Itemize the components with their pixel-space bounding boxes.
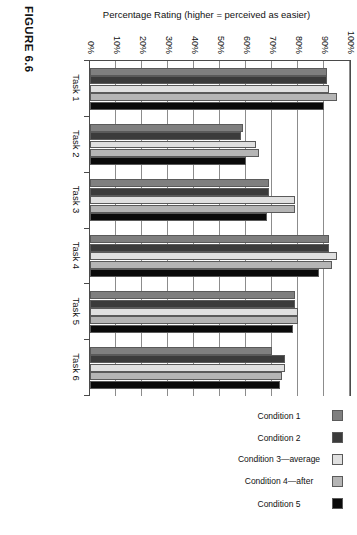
legend-label: Condition 1	[257, 410, 300, 420]
category-label-task-3: Task 3	[71, 186, 82, 213]
y-axis-tick-label: 90%	[320, 36, 330, 54]
bar	[90, 93, 337, 101]
bar	[90, 372, 282, 380]
legend-swatch-icon	[332, 410, 343, 421]
bar	[90, 196, 295, 204]
category-tick-mark	[84, 395, 89, 396]
legend-item[interactable]: Condition 3—average	[230, 448, 343, 470]
bar	[90, 188, 269, 196]
bar	[90, 244, 329, 252]
y-axis-tick-label: 0%	[86, 41, 96, 54]
bar	[90, 85, 329, 93]
y-axis-tick-label: 70%	[268, 36, 278, 54]
bar	[90, 132, 241, 140]
legend-label-container: Condition 4—after	[230, 470, 326, 492]
figure-caption: FIGURE 6.6	[23, 6, 35, 73]
y-axis-tick-label: 30%	[164, 36, 174, 54]
bar	[90, 213, 267, 221]
y-axis-tick-label: 50%	[216, 36, 226, 54]
legend-item[interactable]: Condition 1	[230, 404, 343, 426]
chart-legend: Condition 1Condition 2Condition 3—averag…	[230, 404, 343, 514]
y-axis-tick-label: 80%	[294, 36, 304, 54]
category-tick-mark	[84, 283, 89, 284]
legend-swatch-icon	[332, 498, 343, 509]
bar	[90, 149, 259, 157]
legend-label: Condition 2	[257, 432, 300, 442]
bar	[90, 235, 329, 243]
bar	[90, 205, 295, 213]
bar	[90, 308, 298, 316]
legend-label: Condition 3—average	[238, 454, 320, 464]
legend-label-container: Condition 3—average	[230, 448, 326, 470]
bar	[90, 300, 295, 308]
category-tick-mark	[84, 228, 89, 229]
bar	[90, 124, 243, 132]
y-axis-tick-label: 20%	[138, 36, 148, 54]
category-label-task-5: Task 5	[71, 298, 82, 325]
legend-item[interactable]: Condition 4—after	[230, 470, 343, 492]
legend-label: Condition 4—after	[245, 476, 314, 486]
y-axis-tick-label: 100%	[346, 31, 356, 54]
y-axis-title: Percentage Rating (higher = perceived as…	[103, 10, 310, 21]
bar	[90, 325, 293, 333]
category-tick-mark	[84, 339, 89, 340]
category-label-task-2: Task 2	[71, 130, 82, 157]
bar	[90, 157, 246, 165]
bars-layer	[90, 61, 350, 396]
bar	[90, 269, 319, 277]
legend-item[interactable]: Condition 2	[230, 426, 343, 448]
legend-label-container: Condition 5	[230, 492, 326, 514]
bar	[90, 381, 280, 389]
bar	[90, 261, 332, 269]
legend-swatch-icon	[332, 432, 343, 443]
bar	[90, 102, 324, 110]
category-tick-mark	[84, 116, 89, 117]
bar	[90, 355, 285, 363]
bar	[90, 252, 337, 260]
legend-label-container: Condition 2	[230, 426, 326, 448]
category-label-task-6: Task 6	[71, 353, 82, 380]
bar	[90, 76, 327, 84]
y-axis-tick-label: 10%	[112, 36, 122, 54]
y-axis-tick-labels: 0%10%20%30%40%50%60%70%80%90%100%	[89, 26, 351, 58]
category-tick-mark	[84, 60, 89, 61]
plot-frame	[89, 60, 351, 396]
y-axis-tick-label: 60%	[242, 36, 252, 54]
bar	[90, 316, 298, 324]
bar	[90, 141, 256, 149]
legend-swatch-icon	[332, 454, 343, 465]
category-label-task-4: Task 4	[71, 242, 82, 269]
category-label-task-1: Task 1	[71, 74, 82, 101]
legend-label-container: Condition 1	[230, 404, 326, 426]
legend-label: Condition 5	[257, 498, 300, 508]
bar	[90, 179, 269, 187]
category-axis-labels: Task 1Task 2Task 3Task 4Task 5Task 6	[63, 60, 89, 396]
bar	[90, 291, 295, 299]
bar	[90, 347, 272, 355]
chart-area: 0%10%20%30%40%50%60%70%80%90%100% Task 1…	[63, 26, 351, 396]
legend-item[interactable]: Condition 5	[230, 492, 343, 514]
figure-stage: Percentage Rating (higher = perceived as…	[0, 0, 357, 535]
y-axis-title-container: Percentage Rating (higher = perceived as…	[57, 4, 357, 26]
bar	[90, 68, 327, 76]
category-tick-mark	[84, 172, 89, 173]
bar	[90, 364, 285, 372]
legend-swatch-icon	[332, 476, 343, 487]
y-axis-tick-label: 40%	[190, 36, 200, 54]
